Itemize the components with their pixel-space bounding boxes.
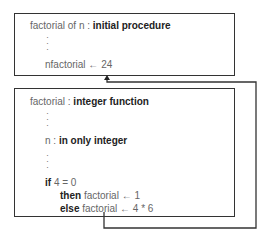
return-value-connector [0,0,268,239]
up-arrow-icon [104,75,110,80]
